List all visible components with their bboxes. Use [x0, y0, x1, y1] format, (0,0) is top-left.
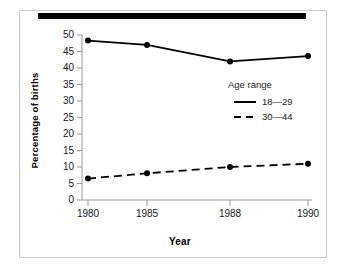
y-tick-label-30: 30: [54, 95, 74, 106]
y-tick-label-25: 25: [54, 112, 74, 123]
x-tick-label-1985: 1985: [127, 208, 167, 219]
series-markers-18-29: [85, 38, 311, 65]
y-tick-label-10: 10: [54, 161, 74, 172]
x-tick-label-1988: 1988: [210, 208, 250, 219]
y-tick-label-35: 35: [54, 79, 74, 90]
y-tick-label-5: 5: [54, 178, 74, 189]
line-chart-plot: [0, 0, 344, 273]
y-tick-label-45: 45: [54, 46, 74, 57]
legend-key-dashed-line-icon: [234, 112, 256, 122]
y-tick-label-50: 50: [54, 29, 74, 40]
legend-key-solid-line-icon: [234, 97, 256, 107]
series-line-30-44: [88, 164, 308, 179]
figure-canvas: 0 5 10 15 20 25 30 35 40 45 50 1980 1985…: [0, 0, 344, 273]
legend-label-18-29: 18—29: [262, 96, 293, 107]
series-markers-30-44: [85, 161, 311, 182]
y-tick-marks: [77, 35, 82, 200]
y-tick-label-0: 0: [54, 194, 74, 205]
y-axis-title: Percentage of births: [29, 61, 40, 181]
legend-label-30-44: 30—44: [262, 111, 293, 122]
y-tick-label-40: 40: [54, 62, 74, 73]
series-line-18-29: [88, 41, 308, 62]
y-tick-label-15: 15: [54, 145, 74, 156]
chart-legend: Age range 18—29 30—44: [224, 79, 320, 124]
x-axis-title: Year: [100, 236, 260, 247]
legend-title: Age range: [228, 79, 320, 90]
y-tick-label-20: 20: [54, 128, 74, 139]
x-tick-label-1990: 1990: [288, 208, 328, 219]
x-tick-label-1980: 1980: [68, 208, 108, 219]
legend-entry-30-44: 30—44: [234, 109, 320, 124]
legend-entry-18-29: 18—29: [234, 94, 320, 109]
x-tick-marks: [88, 200, 308, 206]
